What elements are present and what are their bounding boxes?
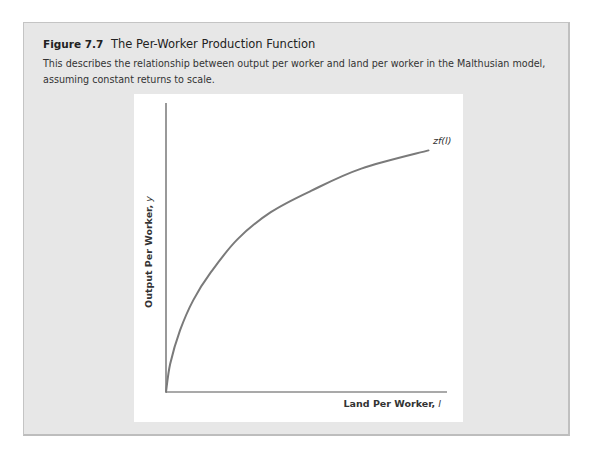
x-axis-label: Land Per Worker, l xyxy=(344,398,442,409)
figure-box: Figure 7.7 The Per-Worker Production Fun… xyxy=(23,22,570,436)
chart-panel: zf(l) Land Per Worker, l Output Per Work… xyxy=(134,94,463,422)
production-curve xyxy=(166,150,429,392)
figure-title: Figure 7.7 The Per-Worker Production Fun… xyxy=(43,37,315,51)
figure-caption: This describes the relationship between … xyxy=(43,56,548,88)
curve-label: zf(l) xyxy=(432,135,451,146)
y-axis-label: Output Per Worker, y xyxy=(143,196,154,308)
figure-title-text: The Per-Worker Production Function xyxy=(111,37,315,51)
figure-number: Figure 7.7 xyxy=(43,38,103,50)
production-function-chart: zf(l) Land Per Worker, l Output Per Work… xyxy=(134,94,463,422)
